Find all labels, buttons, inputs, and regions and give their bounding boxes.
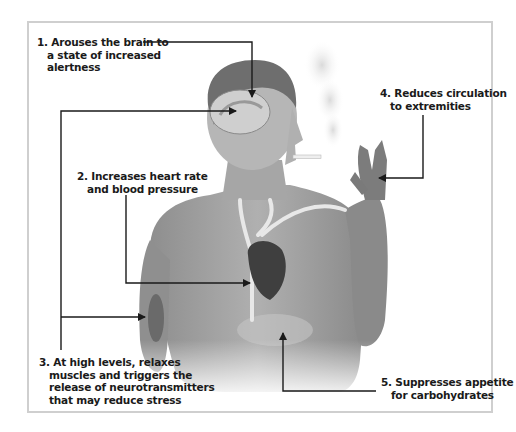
- annotation-3-relaxes-muscles: 3. At high levels, relaxes muscles and t…: [39, 356, 215, 406]
- annotation-4-circulation: 4. Reduces circulation to extremities: [380, 87, 507, 112]
- annotation-1-line-1: 1. Arouses the brain to: [37, 36, 169, 49]
- annotation-3-line-2: muscles and triggers the: [39, 369, 215, 382]
- annotation-2-line-1: 2. Increases heart rate: [77, 170, 208, 183]
- smoke: [304, 40, 344, 148]
- annotation-4-line-1: 4. Reduces circulation: [380, 87, 507, 100]
- annotation-4-line-2: to extremities: [380, 100, 507, 113]
- annotation-5-line-1: 5. Suppresses appetite: [381, 376, 513, 389]
- annotation-3-line-4: that may reduce stress: [39, 394, 215, 407]
- annotation-1-line-3: alertness: [37, 61, 169, 74]
- head: [207, 60, 303, 170]
- annotation-2-line-2: and blood pressure: [77, 183, 208, 196]
- annotation-5-line-2: for carbohydrates: [381, 389, 513, 402]
- annotation-3-line-1: 3. At high levels, relaxes: [39, 356, 215, 369]
- annotation-1-line-2: a state of increased: [37, 49, 169, 62]
- annotation-3-line-3: release of neurotransmitters: [39, 381, 215, 394]
- cigarette: [293, 155, 321, 159]
- annotation-2-heart-rate: 2. Increases heart rate and blood pressu…: [77, 170, 208, 195]
- annotation-5-appetite: 5. Suppresses appetite for carbohydrates: [381, 376, 513, 401]
- annotation-1-arouses-brain: 1. Arouses the brain to a state of incre…: [37, 36, 169, 74]
